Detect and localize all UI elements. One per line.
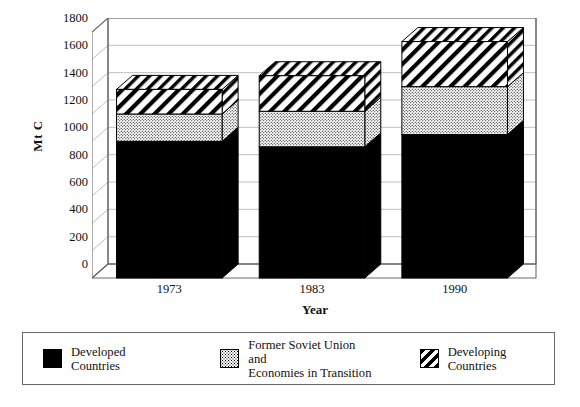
y-tick-label: 1000	[40, 121, 88, 133]
legend-label: Developed Countries	[71, 345, 173, 373]
legend-item-former-soviet-union: Former Soviet Union and Economies in Tra…	[220, 338, 371, 380]
x-axis-tick-labels: 197319831990	[92, 282, 538, 302]
y-tick-label: 200	[40, 231, 88, 243]
legend-item-developing-countries: Developing Countries	[420, 345, 554, 373]
bar-segment	[117, 75, 239, 114]
y-tick-label: 1800	[40, 12, 88, 24]
bar-segment	[259, 62, 381, 112]
y-tick-label: 800	[40, 149, 88, 161]
bars-layer	[92, 18, 538, 280]
chart-frame	[92, 18, 538, 280]
x-tick-label: 1973	[124, 282, 214, 297]
bar-segment	[117, 127, 239, 278]
y-tick-label: 400	[40, 203, 88, 215]
chart-plot-panel: Mt C 180016001400120010008006004002000	[0, 0, 580, 322]
x-tick-label: 1990	[410, 282, 500, 297]
y-axis-tick-labels: 180016001400120010008006004002000	[40, 12, 88, 284]
legend-row: Developed Countries Former Soviet Union …	[23, 333, 554, 384]
y-tick-label: 1600	[40, 39, 88, 51]
legend-item-developed-countries: Developed Countries	[43, 345, 173, 373]
x-tick-label: 1983	[267, 282, 357, 297]
y-tick-label: 1400	[40, 67, 88, 79]
legend-label: Former Soviet Union and Economies in Tra…	[248, 338, 371, 380]
y-tick-label: 1200	[40, 94, 88, 106]
x-axis-title: Year	[92, 302, 538, 318]
chart-legend: Developed Countries Former Soviet Union …	[22, 332, 555, 385]
legend-swatch-dotted-icon	[220, 349, 239, 368]
bar-series-group	[117, 28, 524, 278]
legend-swatch-hatch-icon	[420, 349, 439, 368]
y-tick-label: 0	[40, 258, 88, 270]
legend-label: Developing Countries	[448, 345, 554, 373]
legend-swatch-solid-icon	[43, 349, 62, 368]
y-tick-label: 600	[40, 176, 88, 188]
bar-segment	[402, 121, 524, 279]
bar-segment	[259, 133, 381, 278]
bar-segment	[402, 28, 524, 87]
